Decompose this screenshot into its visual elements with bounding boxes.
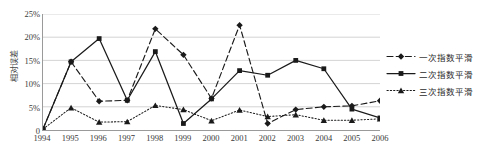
legend-key-icon <box>386 68 416 79</box>
data-point-marker <box>398 53 404 59</box>
data-point-marker <box>265 73 270 78</box>
data-point-marker <box>378 116 380 121</box>
y-axis-tick-label: 5% <box>10 104 40 112</box>
legend-item-1[interactable]: 一次指数平滑 <box>386 48 490 65</box>
data-point-marker <box>180 107 186 113</box>
plot-area <box>42 14 380 131</box>
y-axis-tick-label: 25% <box>10 10 40 18</box>
data-point-marker <box>208 118 214 124</box>
data-point-marker <box>264 120 270 126</box>
legend-item-label: 三次指数平滑 <box>419 85 473 97</box>
legend-key-icon <box>386 85 416 96</box>
data-point-marker <box>181 121 186 126</box>
x-axis-tick-labels: 1994199519961997199819992000200120022003… <box>42 133 380 149</box>
data-point-marker <box>237 68 242 73</box>
data-point-marker <box>293 106 299 112</box>
chart-figure: 相对误差 05%10%15%20%25% 1994199519961997199… <box>0 0 492 164</box>
data-point-marker <box>321 104 327 110</box>
legend: 一次指数平滑二次指数平滑三次指数平滑 <box>386 48 490 99</box>
legend-item-label: 二次指数平滑 <box>419 68 473 80</box>
series-canvas <box>43 14 380 130</box>
legend-item-2[interactable]: 二次指数平滑 <box>386 65 490 82</box>
legend-key-icon <box>386 51 416 62</box>
x-axis-tick-label: 2006 <box>360 133 400 143</box>
data-point-marker <box>399 71 404 76</box>
data-point-marker <box>97 36 102 41</box>
series-2 <box>43 36 380 130</box>
y-axis-tick-label: 15% <box>10 57 40 65</box>
data-point-marker <box>293 58 298 63</box>
legend-item-3[interactable]: 三次指数平滑 <box>386 82 490 99</box>
legend-item-label: 一次指数平滑 <box>419 51 473 63</box>
data-point-marker <box>321 66 326 71</box>
data-point-marker <box>153 49 158 54</box>
series-line <box>43 105 380 129</box>
data-point-marker <box>236 107 242 113</box>
data-point-marker <box>96 98 102 104</box>
y-axis-tick-label: 20% <box>10 33 40 41</box>
data-point-marker <box>236 22 242 28</box>
y-axis-tick-label: 10% <box>10 80 40 88</box>
data-point-marker <box>377 98 380 104</box>
data-point-marker <box>68 105 74 111</box>
